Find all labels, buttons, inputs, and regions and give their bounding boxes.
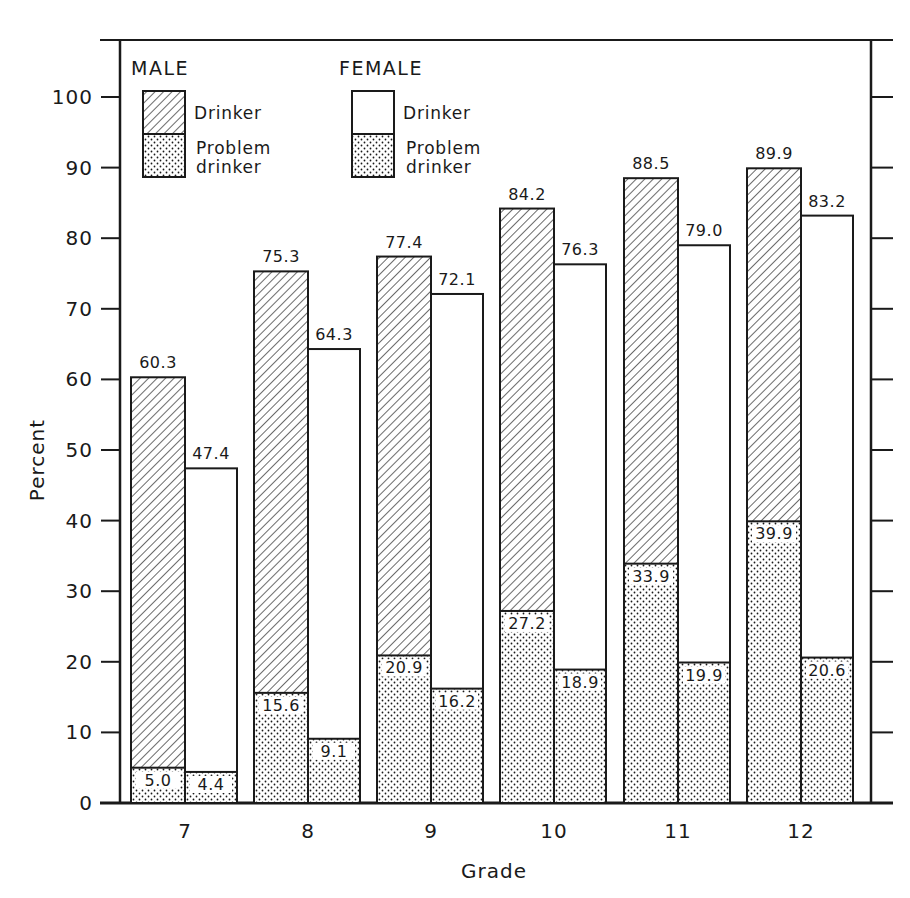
value-label-male-problem: 39.9 (755, 524, 793, 543)
bar-male-problem-drinker (747, 521, 801, 803)
value-label-female-problem: 9.1 (321, 742, 348, 761)
value-label-male-problem: 27.2 (508, 614, 546, 633)
legend-male-problem-label-1: Problem (196, 138, 271, 158)
legend-male-drinker-label: Drinker (194, 103, 262, 123)
value-label-male-problem: 33.9 (632, 567, 670, 586)
legend-female-problem-label-2: drinker (406, 157, 472, 177)
value-label-male-drinker: 88.5 (632, 154, 670, 173)
y-tick-label: 30 (66, 579, 93, 603)
bar-group-grade-10: 84.276.327.218.9 (500, 185, 606, 803)
value-label-female-problem: 4.4 (198, 775, 225, 794)
bar-female-drinker (185, 468, 237, 803)
x-tick-label: 11 (664, 819, 691, 843)
value-label-male-problem: 20.9 (385, 658, 423, 677)
legend-male: MALE Drinker Problem drinker (131, 57, 271, 177)
value-label-female-drinker: 83.2 (808, 192, 846, 211)
value-label-male-problem: 5.0 (145, 771, 172, 790)
x-tick-label: 7 (178, 819, 192, 843)
y-tick-label: 20 (66, 650, 93, 674)
value-label-female-problem: 16.2 (438, 692, 476, 711)
value-label-male-problem: 15.6 (262, 696, 300, 715)
chart: 0102030405060708090100 Percent 60.347.45… (0, 0, 910, 898)
legend-female: FEMALE Drinker Problem drinker (339, 57, 481, 177)
value-label-female-problem: 20.6 (808, 661, 846, 680)
legend-male-drinker-swatch (143, 91, 185, 134)
y-axis-title: Percent (25, 419, 49, 501)
legend-female-problem-swatch (352, 134, 394, 177)
y-tick-label: 40 (66, 509, 93, 533)
bar-group-grade-11: 88.579.033.919.9 (624, 154, 730, 803)
x-tick-label: 12 (787, 819, 814, 843)
legend-female-heading: FEMALE (339, 57, 423, 79)
y-tick-label: 10 (66, 720, 93, 744)
y-axis-tick-labels: 0102030405060708090100 (52, 85, 93, 815)
legend-female-problem-label-1: Problem (406, 138, 481, 158)
x-tick-label: 10 (540, 819, 567, 843)
bar-group-grade-8: 75.364.315.69.1 (254, 247, 360, 803)
legend-male-problem-swatch (143, 134, 185, 177)
legend-female-drinker-swatch (352, 91, 394, 134)
y-tick-label: 70 (66, 297, 93, 321)
bar-male-problem-drinker (624, 564, 678, 803)
bar-male-problem-drinker (377, 655, 431, 803)
y-tick-label: 50 (66, 438, 93, 462)
value-label-female-drinker: 79.0 (685, 221, 723, 240)
bar-male-problem-drinker (500, 611, 554, 803)
bar-group-grade-12: 89.983.239.920.6 (747, 144, 853, 803)
value-label-female-problem: 19.9 (685, 666, 723, 685)
value-label-female-problem: 18.9 (561, 673, 599, 692)
x-tick-label: 8 (301, 819, 315, 843)
value-label-female-drinker: 47.4 (192, 444, 230, 463)
x-axis-tick-labels: 789101112 (178, 819, 815, 843)
value-label-female-drinker: 76.3 (561, 240, 599, 259)
bar-group-grade-7: 60.347.45.04.4 (131, 353, 237, 803)
value-label-male-drinker: 60.3 (139, 353, 177, 372)
y-tick-label: 60 (66, 367, 93, 391)
y-tick-label: 0 (79, 791, 93, 815)
bar-female-drinker (308, 349, 360, 803)
x-axis-title: Grade (461, 859, 527, 883)
x-tick-label: 9 (424, 819, 438, 843)
bar-group-grade-9: 77.472.120.916.2 (377, 233, 483, 803)
legend: MALE Drinker Problem drinker FEMALE Drin… (131, 57, 481, 177)
legend-male-heading: MALE (131, 57, 189, 79)
bars: 60.347.45.04.475.364.315.69.177.472.120.… (131, 144, 853, 803)
value-label-male-drinker: 89.9 (755, 144, 793, 163)
y-tick-label: 100 (52, 85, 93, 109)
legend-male-problem-label-2: drinker (196, 157, 262, 177)
value-label-female-drinker: 72.1 (438, 270, 476, 289)
value-label-female-drinker: 64.3 (315, 325, 353, 344)
value-label-male-drinker: 84.2 (508, 185, 546, 204)
y-tick-label: 80 (66, 226, 93, 250)
value-label-male-drinker: 75.3 (262, 247, 300, 266)
value-label-male-drinker: 77.4 (385, 233, 423, 252)
bar-male-drinker (131, 377, 185, 803)
legend-female-drinker-label: Drinker (403, 103, 471, 123)
y-tick-label: 90 (66, 156, 93, 180)
